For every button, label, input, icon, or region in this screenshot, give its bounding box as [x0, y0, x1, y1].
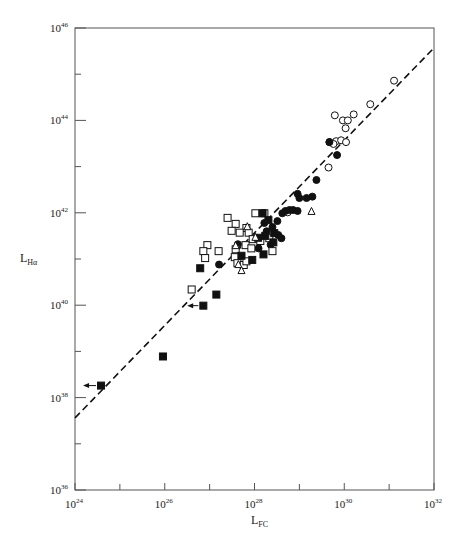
filled-circle-marker: [274, 218, 281, 225]
open-circle-marker: [342, 125, 349, 132]
x-tick-label: 1032: [424, 497, 443, 510]
arrowhead-icon: [83, 383, 89, 388]
open-square-marker: [245, 229, 252, 236]
x-tick-label: 1024: [65, 497, 84, 510]
upper-limit-arrows: [83, 303, 198, 388]
open-circle-marker: [343, 139, 350, 146]
y-tick-label: 1040: [50, 298, 69, 311]
y-tick-label: 1038: [50, 391, 69, 404]
filled-square-marker: [259, 210, 266, 217]
scatter-chart: 1024102610281030103210361038104010421044…: [0, 0, 470, 548]
filled-square-marker: [249, 256, 256, 263]
x-tick-label: 1026: [155, 497, 174, 510]
filled-square-marker: [197, 265, 204, 272]
open-square-marker: [188, 286, 195, 293]
filled-square-marker: [262, 232, 269, 239]
x-tick-label: 1028: [245, 497, 264, 510]
open-square-marker: [236, 229, 243, 236]
y-axis-title: LHα: [20, 251, 38, 267]
open-circle-marker: [350, 111, 357, 118]
filled-circle-marker: [278, 235, 285, 242]
filled-circle-marker: [334, 152, 341, 159]
y-tick-label: 1046: [50, 21, 69, 34]
x-axis-title: LFC: [251, 513, 268, 529]
open-square-marker: [228, 227, 235, 234]
filled-square-marker: [271, 230, 278, 237]
open-square-marker: [248, 245, 255, 252]
open-circle-marker: [331, 112, 338, 119]
open-square-marker: [224, 214, 231, 221]
filled-square-marker: [213, 291, 220, 298]
open-circle-marker: [344, 117, 351, 124]
filled-circle-marker: [309, 193, 316, 200]
open-square-marker: [232, 220, 239, 227]
filled-circle-marker: [296, 195, 303, 202]
open-circle-marker: [367, 101, 374, 108]
arrowhead-icon: [187, 303, 193, 308]
open-square-marker: [215, 248, 222, 255]
filled-square-marker: [238, 252, 245, 259]
open-circle-marker: [325, 164, 332, 171]
open-square-marker: [200, 248, 207, 255]
y-tick-label: 1044: [50, 113, 69, 126]
open-circle-marker: [391, 77, 398, 84]
filled-square-marker: [265, 217, 272, 224]
filled-circle-marker: [313, 176, 320, 183]
open-square-marker: [252, 210, 259, 217]
x-tick-label: 1030: [334, 497, 353, 510]
filled-square-marker: [159, 353, 166, 360]
filled-circle-marker: [216, 261, 223, 268]
open-square-marker: [202, 255, 209, 262]
fit-line: [75, 48, 434, 418]
filled-square-marker: [260, 251, 267, 258]
filled-square-marker: [200, 302, 207, 309]
filled-square-marker: [270, 239, 277, 246]
open-square-marker: [269, 248, 276, 255]
open-triangle-marker: [308, 207, 315, 214]
filled-circle-marker: [294, 207, 301, 214]
filled-circle-marker: [326, 139, 333, 146]
y-tick-label: 1036: [50, 483, 69, 496]
y-tick-label: 1042: [50, 206, 69, 219]
filled-circle-marker: [279, 210, 286, 217]
filled-square-marker: [98, 382, 105, 389]
data-points: [98, 77, 398, 389]
